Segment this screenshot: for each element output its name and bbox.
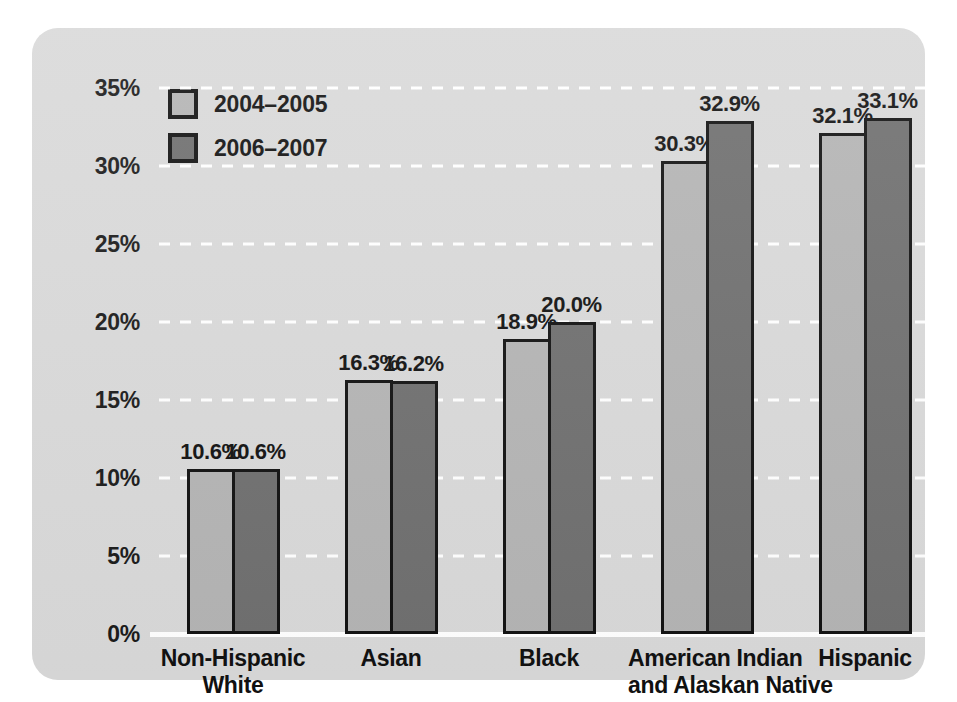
y-axis-tick-label: 25%: [95, 231, 140, 258]
bar-pair: 32.1%33.1%: [819, 118, 912, 634]
bar-value-label: 33.1%: [857, 88, 917, 114]
x-axis-category-label: American Indianand Alaskan Native: [628, 645, 786, 699]
category-label-line: and Alaskan Native: [628, 672, 786, 699]
category-label-line: Black: [470, 645, 628, 672]
bar-pair: 18.9%20.0%: [503, 322, 596, 634]
bar-group: 30.3%32.9%American Indianand Alaskan Nat…: [661, 88, 754, 634]
bar[interactable]: 18.9%: [503, 339, 551, 634]
bar-value-label: 32.9%: [699, 91, 759, 117]
x-axis-category-label: Asian: [312, 645, 470, 672]
category-label-line: Asian: [312, 645, 470, 672]
y-axis-tick-label: 20%: [95, 309, 140, 336]
y-axis-tick-label: 0%: [107, 621, 140, 648]
bar[interactable]: 20.0%: [548, 322, 596, 634]
bar-value-label: 20.0%: [541, 292, 601, 318]
bar-group: 32.1%33.1%Hispanic: [819, 88, 912, 634]
bar[interactable]: 16.3%: [345, 380, 393, 634]
category-label-line: Hispanic: [786, 645, 944, 672]
category-label-line: White: [154, 672, 312, 699]
y-axis-tick-label: 30%: [95, 153, 140, 180]
bar-group: 16.3%16.2%Asian: [345, 88, 438, 634]
y-axis-tick-label: 35%: [95, 75, 140, 102]
y-axis-tick-label: 5%: [107, 543, 140, 570]
chart-panel: 2004–2005 2006–2007 35%30%25%20%15%10%5%…: [32, 28, 925, 680]
bar-group: 10.6%10.6%Non-HispanicWhite: [187, 88, 280, 634]
bar-pair: 10.6%10.6%: [187, 469, 280, 634]
plot-area: 35%30%25%20%15%10%5%0% 10.6%10.6%Non-His…: [154, 88, 944, 634]
bar[interactable]: 16.2%: [390, 381, 438, 634]
category-label-line: Non-Hispanic: [154, 645, 312, 672]
category-label-line: American Indian: [628, 645, 786, 672]
bar-chart-figure: 2004–2005 2006–2007 35%30%25%20%15%10%5%…: [0, 0, 957, 702]
bar[interactable]: 33.1%: [864, 118, 912, 634]
y-axis-tick-label: 15%: [95, 387, 140, 414]
bar[interactable]: 30.3%: [661, 161, 709, 634]
bar[interactable]: 10.6%: [232, 469, 280, 634]
y-axis-tick-label: 10%: [95, 465, 140, 492]
x-axis-category-label: Black: [470, 645, 628, 672]
bar-pair: 30.3%32.9%: [661, 121, 754, 634]
bar-group: 18.9%20.0%Black: [503, 88, 596, 634]
bar-pair: 16.3%16.2%: [345, 380, 438, 634]
bar[interactable]: 32.1%: [819, 133, 867, 634]
x-axis-category-label: Hispanic: [786, 645, 944, 672]
bar[interactable]: 32.9%: [706, 121, 754, 634]
bar-value-label: 16.2%: [383, 351, 443, 377]
bar[interactable]: 10.6%: [187, 469, 235, 634]
bar-value-label: 10.6%: [225, 439, 285, 465]
x-axis-category-label: Non-HispanicWhite: [154, 645, 312, 699]
